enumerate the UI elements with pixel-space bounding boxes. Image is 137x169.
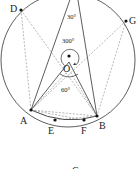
arrow-icon — [73, 63, 76, 66]
point-g — [124, 19, 127, 22]
label-d: D — [10, 3, 17, 14]
point-o — [67, 54, 70, 57]
angle-label-60: 60° — [61, 86, 71, 93]
angle-label-300: 300° — [62, 37, 75, 44]
chord-ca — [31, 0, 72, 110]
label-o: O — [63, 63, 70, 74]
circle-diagram: D G A B E F O 30° 300° 60° C — [0, 0, 137, 169]
label-e: E — [48, 125, 54, 136]
point-e — [53, 118, 56, 121]
label-c: C — [72, 165, 79, 169]
label-g: G — [129, 15, 136, 26]
point-a — [29, 108, 32, 111]
label-b: B — [99, 120, 106, 131]
chord-cb — [77, 0, 97, 116]
point-f — [82, 118, 85, 121]
point-b — [95, 114, 98, 117]
label-a: A — [20, 115, 28, 126]
angle-label-30: 30° — [67, 13, 77, 20]
label-f: F — [81, 125, 87, 136]
point-d — [19, 8, 22, 11]
